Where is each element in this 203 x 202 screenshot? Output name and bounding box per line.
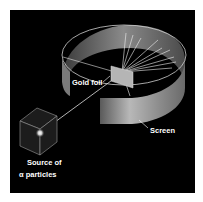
label-screen: Screen [150, 126, 175, 135]
alpha-source-cube [20, 108, 57, 155]
label-gold-foil: Gold foil [72, 78, 102, 87]
label-source-line2: α particles [19, 170, 57, 179]
rutherford-diagram: Gold foil Screen Source of α particles [0, 0, 203, 202]
label-source-line1: Source of [27, 158, 62, 167]
